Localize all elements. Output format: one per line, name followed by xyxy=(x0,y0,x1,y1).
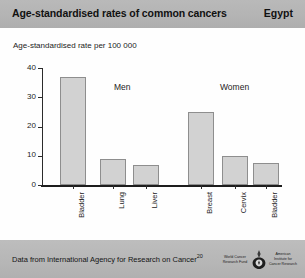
chart-plot-area: Age-standardised rate per 100 000 010203… xyxy=(0,28,305,240)
source-note-text: Data from International Agency for Resea… xyxy=(12,255,197,264)
country-label: Egypt xyxy=(264,7,293,19)
x-tick-mark xyxy=(73,185,74,189)
aicr-logo-text: American Institute for Cancer Research xyxy=(269,252,297,266)
x-category-label: Breast xyxy=(205,192,214,214)
x-category-label: Cervix xyxy=(239,192,248,213)
chart-title: Age-standardised rates of common cancers xyxy=(12,7,227,19)
chart-figure: Age-standardised rates of common cancers… xyxy=(0,0,305,278)
chart-header-band: Age-standardised rates of common cancers… xyxy=(0,0,305,28)
x-tick-mark xyxy=(146,185,147,189)
bar xyxy=(222,156,248,185)
bar xyxy=(133,165,159,185)
x-tick-mark xyxy=(266,185,267,189)
x-tick-mark xyxy=(235,185,236,189)
y-tick-mark xyxy=(38,185,42,186)
bar xyxy=(60,77,86,185)
wcrf-logo-text: World Cancer Research Fund xyxy=(221,255,249,264)
organisation-logos: World Cancer Research Fund American Inst… xyxy=(211,248,297,271)
x-category-label: Lung xyxy=(117,192,126,209)
group-label: Women xyxy=(220,82,249,92)
x-tick-mark xyxy=(113,185,114,189)
source-note-superscript: 20 xyxy=(197,253,203,259)
y-tick-label: 0 xyxy=(32,180,36,189)
bar xyxy=(253,163,279,185)
x-tick-mark xyxy=(201,185,202,189)
y-axis-line xyxy=(42,68,43,185)
y-tick-mark xyxy=(38,68,42,69)
wcrf-aicr-emblem-icon xyxy=(251,249,267,270)
y-tick-label: 10 xyxy=(27,150,36,159)
bar xyxy=(100,159,126,185)
x-axis-line xyxy=(41,185,282,187)
y-tick-label: 40 xyxy=(27,63,36,72)
y-tick-label: 30 xyxy=(27,92,36,101)
source-note: Data from International Agency for Resea… xyxy=(12,253,203,264)
y-tick-mark xyxy=(38,127,42,128)
y-tick-label: 20 xyxy=(27,121,36,130)
y-axis-title: Age-standardised rate per 100 000 xyxy=(13,41,137,50)
x-category-label: Liver xyxy=(150,192,159,208)
plot-canvas: 010203040 BladderLungLiverBreastCervixBl… xyxy=(42,68,282,185)
bar xyxy=(188,112,214,185)
y-tick-mark xyxy=(38,156,42,157)
y-tick-mark xyxy=(38,97,42,98)
group-label: Men xyxy=(114,82,131,92)
x-category-label: Bladder xyxy=(270,192,279,218)
x-category-label: Bladder xyxy=(77,192,86,218)
chart-footer-band: Data from International Agency for Resea… xyxy=(0,240,305,278)
